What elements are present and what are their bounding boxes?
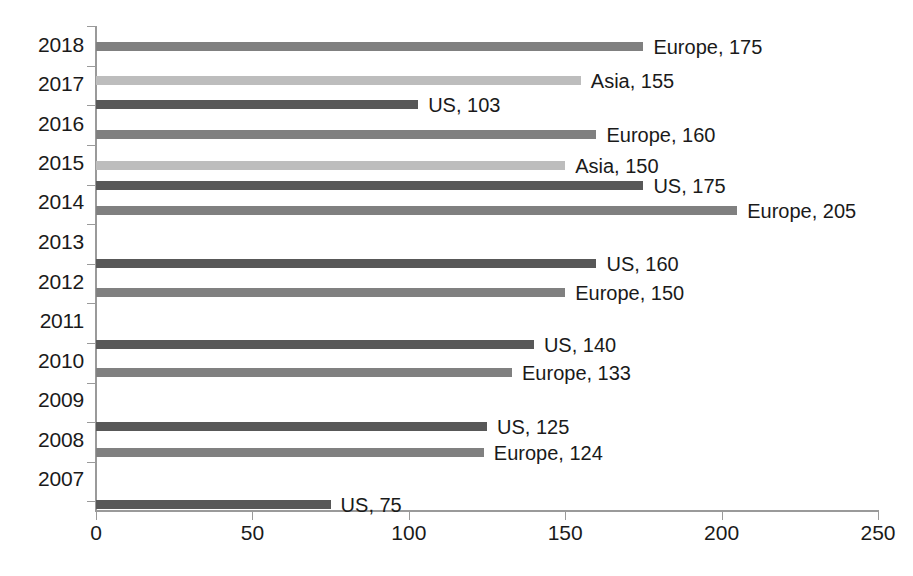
bar-data-label: Asia, 150 — [575, 155, 658, 178]
x-axis-tick-mark — [878, 511, 879, 520]
bar-2008-europe — [96, 448, 484, 457]
bar-2009-us — [96, 422, 487, 431]
y-axis-tick-label: 2015 — [8, 151, 84, 175]
bar-2007-us — [96, 500, 331, 509]
bar-2015-us — [96, 181, 643, 190]
bar-chart: 2018201720162015201420132012201120102009… — [0, 0, 913, 576]
y-axis-tick-mark — [87, 264, 96, 265]
y-axis-line — [95, 26, 97, 511]
x-axis-tick-mark — [722, 511, 723, 520]
bar-data-label: Europe, 124 — [494, 442, 603, 465]
x-axis-tick-mark — [252, 511, 253, 520]
bar-data-label: Europe, 175 — [653, 36, 762, 59]
bar-data-label: Europe, 150 — [575, 282, 684, 305]
x-axis-line — [95, 510, 879, 512]
bar-2017-us — [96, 100, 418, 109]
y-axis-tick-label: 2014 — [8, 190, 84, 214]
bar-2016-europe — [96, 130, 596, 139]
y-axis-tick-mark — [87, 224, 96, 225]
bar-data-label: Asia, 155 — [591, 70, 674, 93]
y-axis-tick-mark — [87, 26, 96, 27]
bar-2014-europe — [96, 206, 737, 215]
y-axis-labels: 2018201720162015201420132012201120102009… — [0, 0, 84, 576]
bar-2018-europe — [96, 42, 643, 51]
y-axis-tick-mark — [87, 145, 96, 146]
y-axis-tick-mark — [87, 422, 96, 423]
y-axis-tick-mark — [87, 303, 96, 304]
y-axis-tick-mark — [87, 501, 96, 502]
bar-data-label: US, 140 — [544, 334, 616, 357]
bar-data-label: US, 125 — [497, 416, 569, 439]
bar-2015-asia — [96, 161, 565, 170]
y-axis-tick-label: 2009 — [8, 388, 84, 412]
y-axis-tick-label: 2018 — [8, 33, 84, 57]
x-axis-tick-label: 100 — [391, 521, 426, 545]
x-axis-tick-mark — [96, 511, 97, 520]
bar-data-label: US, 75 — [341, 494, 402, 517]
y-axis-tick-label: 2008 — [8, 428, 84, 452]
bar-data-label: US, 160 — [606, 253, 678, 276]
x-axis-tick-label: 0 — [90, 521, 102, 545]
y-axis-tick-label: 2007 — [8, 467, 84, 491]
x-axis-tick-mark — [409, 511, 410, 520]
bar-2012-europe — [96, 288, 565, 297]
y-axis-tick-mark — [87, 66, 96, 67]
bar-data-label: Europe, 133 — [522, 362, 631, 385]
y-axis-tick-mark — [87, 343, 96, 344]
y-axis-tick-label: 2017 — [8, 72, 84, 96]
bar-data-label: US, 103 — [428, 94, 500, 117]
bar-data-label: US, 175 — [653, 175, 725, 198]
bar-2010-europe — [96, 368, 512, 377]
y-axis-tick-label: 2016 — [8, 112, 84, 136]
x-axis-tick-label: 200 — [704, 521, 739, 545]
bar-2017-asia — [96, 76, 581, 85]
bar-data-label: Europe, 205 — [747, 200, 856, 223]
y-axis-tick-label: 2012 — [8, 270, 84, 294]
x-axis-tick-label: 250 — [860, 521, 895, 545]
y-axis-tick-mark — [87, 105, 96, 106]
y-axis-tick-mark — [87, 185, 96, 186]
y-axis-tick-label: 2011 — [8, 309, 84, 333]
y-axis-tick-label: 2010 — [8, 349, 84, 373]
x-axis-tick-mark — [565, 511, 566, 520]
x-axis-tick-label: 50 — [241, 521, 264, 545]
bar-data-label: Europe, 160 — [606, 124, 715, 147]
y-axis-tick-mark — [87, 462, 96, 463]
bar-2013-us — [96, 259, 596, 268]
x-axis-tick-label: 150 — [548, 521, 583, 545]
bar-2011-us — [96, 340, 534, 349]
y-axis-tick-mark — [87, 383, 96, 384]
y-axis-tick-label: 2013 — [8, 230, 84, 254]
